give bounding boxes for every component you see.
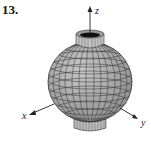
y-axis-label: y bbox=[140, 117, 146, 128]
y-axis bbox=[120, 108, 138, 119]
3d-surface-figure: z x y bbox=[0, 0, 151, 151]
sphere-surface bbox=[48, 40, 132, 122]
x-axis bbox=[29, 104, 54, 115]
x-axis-label: x bbox=[21, 110, 27, 121]
z-axis-label: z bbox=[94, 5, 99, 16]
